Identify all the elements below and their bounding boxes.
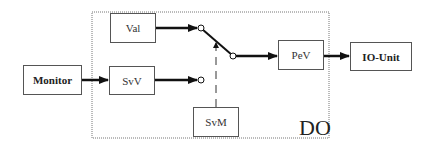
switch-lever xyxy=(202,29,232,55)
block-io-unit-label: IO-Unit xyxy=(362,51,399,63)
block-pev: PeV xyxy=(278,40,324,70)
block-svv: SvV xyxy=(109,66,155,95)
switch-contact-2 xyxy=(198,77,204,83)
switch-output-contact xyxy=(230,53,236,59)
block-val: Val xyxy=(110,13,156,43)
block-monitor: Monitor xyxy=(23,65,82,95)
container-label: DO xyxy=(299,117,331,139)
block-io-unit: IO-Unit xyxy=(350,42,412,71)
block-monitor-label: Monitor xyxy=(33,74,72,86)
block-svm-label: SvM xyxy=(205,116,226,128)
block-svm: SvM xyxy=(193,107,239,137)
block-pev-label: PeV xyxy=(292,49,311,61)
switch-contact-1 xyxy=(198,25,204,31)
block-val-label: Val xyxy=(126,22,141,34)
block-svv-label: SvV xyxy=(122,75,142,87)
